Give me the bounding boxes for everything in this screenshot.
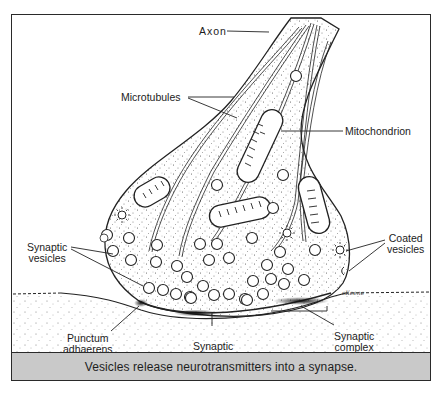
label-mitochondrion-text: Mitochondrion bbox=[345, 125, 411, 137]
label-axon: Axon bbox=[199, 26, 227, 37]
membrane-dashed-left bbox=[13, 293, 61, 294]
label-mitochondrion: Mitochondrion bbox=[345, 126, 411, 137]
label-coated-vesicles: Coated vesicles bbox=[387, 233, 424, 255]
leader-axon bbox=[227, 31, 269, 32]
synapse-diagram-illustration bbox=[12, 15, 432, 355]
axon-terminal-outline bbox=[105, 18, 350, 316]
label-synaptic-vesicles-line2: vesicles bbox=[27, 253, 67, 264]
label-microtubules-text: Microtubules bbox=[121, 91, 181, 103]
label-synaptic-vesicles: Synaptic vesicles bbox=[27, 242, 67, 264]
artist-signature: cKeene bbox=[342, 289, 364, 296]
leader-coated-vesicles-1 bbox=[346, 240, 385, 251]
label-microtubules: Microtubules bbox=[121, 92, 181, 103]
label-coated-vesicles-line2: vesicles bbox=[387, 244, 424, 255]
caption-text: Vesicles release neurotransmitters into … bbox=[85, 360, 357, 374]
leader-coated-vesicles-2 bbox=[349, 243, 385, 271]
figure-caption: Vesicles release neurotransmitters into … bbox=[12, 352, 430, 380]
punctum-adhaerens-density bbox=[134, 299, 148, 307]
synapse-figure: Axon Microtubules Mitochondrion Synaptic… bbox=[11, 14, 431, 381]
label-axon-text: Axon bbox=[199, 25, 227, 37]
label-synaptic-complex: Synaptic complex bbox=[334, 331, 374, 353]
